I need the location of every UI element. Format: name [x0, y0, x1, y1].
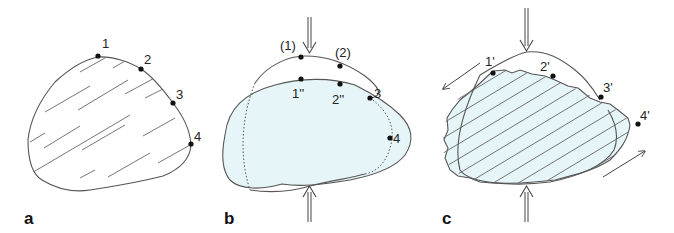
label-3-prime: 3' — [603, 80, 613, 95]
label-4-prime: 4' — [640, 108, 650, 123]
point-1-original — [298, 54, 303, 59]
panel-b: (1) (2) 1'' 2'' 3 4 b — [223, 17, 411, 228]
point-3 — [367, 95, 372, 100]
label-2-prime: 2' — [540, 59, 550, 74]
shear-arrow-left — [443, 63, 480, 89]
point-1-compressed — [298, 76, 303, 81]
point-1 — [95, 53, 100, 58]
panel-label-c: c — [442, 209, 451, 228]
panel-label-a: a — [24, 209, 34, 228]
label-1-prime: 1' — [485, 54, 495, 69]
arrow-down-icon — [303, 42, 316, 53]
grain-outline — [28, 57, 191, 191]
deformation-diagram: 1 2 3 4 a (1) (2) 1'' 2'' 3 4 b — [0, 0, 674, 233]
point-4 — [387, 135, 392, 140]
point-2 — [138, 66, 143, 71]
hatch-lines — [30, 58, 190, 178]
label-2-compressed: 2'' — [332, 92, 344, 107]
label-4: 4 — [194, 129, 201, 144]
label-2-original: (2) — [335, 45, 351, 60]
point-3-prime — [598, 94, 603, 99]
label-3: 3 — [176, 87, 183, 102]
label-2: 2 — [144, 52, 151, 67]
panel-a: 1 2 3 4 a — [24, 36, 201, 228]
label-3: 3 — [374, 86, 381, 101]
point-2-prime — [550, 73, 555, 78]
panel-c: 1' 2' 3' 4' c — [440, 8, 650, 228]
arrow-up-icon — [520, 186, 533, 197]
point-2-compressed — [337, 81, 342, 86]
label-1: 1 — [102, 36, 109, 51]
label-1-original: (1) — [280, 38, 296, 53]
compressed-grain-shape — [223, 79, 411, 188]
label-1-compressed: 1'' — [292, 86, 304, 101]
point-4 — [188, 141, 193, 146]
point-2-original — [337, 63, 342, 68]
point-1-prime — [490, 70, 495, 75]
label-4: 4 — [393, 131, 400, 146]
point-3 — [170, 100, 175, 105]
panel-label-b: b — [224, 209, 234, 228]
arrow-down-icon — [520, 40, 533, 51]
